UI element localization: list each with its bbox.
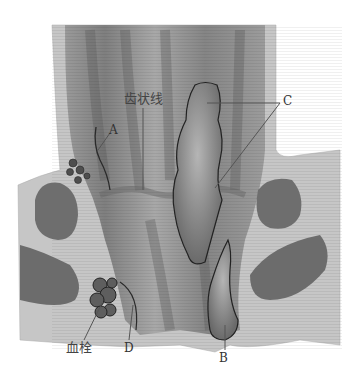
label-c: C — [283, 95, 292, 107]
muscle-right-upper — [257, 179, 302, 229]
label-d: D — [124, 342, 134, 354]
anatomical-diagram — [0, 0, 354, 378]
label-b: B — [219, 352, 228, 364]
thrombus-label: 血栓 — [66, 341, 92, 354]
label-a: A — [109, 124, 118, 136]
dentate-line-label: 齿状线 — [124, 92, 163, 105]
